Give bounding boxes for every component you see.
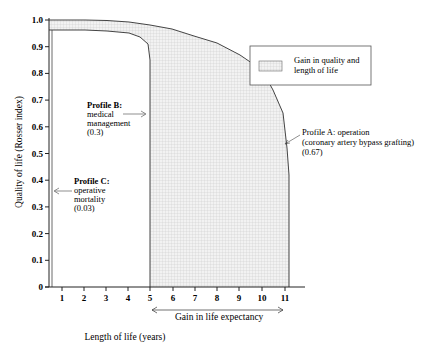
svg-text:Profile A: operation: Profile A: operation — [302, 127, 370, 137]
profile-a-annotation: Profile A: operation (coronary artery by… — [285, 127, 414, 157]
x-tick-labels: 1 2 3 4 5 6 7 8 9 10 11 — [60, 293, 290, 303]
svg-text:8: 8 — [215, 293, 220, 303]
y-ticks — [45, 20, 49, 287]
svg-text:5: 5 — [148, 293, 153, 303]
svg-text:(0.3): (0.3) — [87, 127, 103, 137]
svg-text:(0.67): (0.67) — [302, 147, 323, 157]
svg-text:3: 3 — [104, 293, 109, 303]
svg-text:7: 7 — [193, 293, 198, 303]
x-ticks — [62, 287, 285, 291]
svg-text:0.9: 0.9 — [32, 42, 44, 52]
svg-text:0.7: 0.7 — [32, 95, 44, 105]
svg-text:0.3: 0.3 — [32, 202, 44, 212]
svg-text:0.4: 0.4 — [32, 175, 44, 185]
x-axis-title: Length of life (years) — [85, 332, 166, 343]
qaly-chart: 0 0.1 0.2 0.3 0.4 0.5 0.6 0.7 0.8 0.9 1.… — [0, 0, 428, 347]
svg-text:Gain in quality and: Gain in quality and — [294, 55, 360, 65]
svg-text:0.1: 0.1 — [32, 255, 44, 265]
svg-text:6: 6 — [171, 293, 176, 303]
svg-text:9: 9 — [237, 293, 242, 303]
svg-text:2: 2 — [82, 293, 87, 303]
svg-text:0.8: 0.8 — [32, 68, 44, 78]
gain-life-expectancy-label: Gain in life expectancy — [175, 312, 264, 322]
svg-text:4: 4 — [126, 293, 131, 303]
profile-b-annotation: Profile B: medical management (0.3) — [87, 100, 146, 137]
svg-text:1.0: 1.0 — [32, 15, 44, 25]
svg-text:(coronary artery bypass grafti: (coronary artery bypass grafting) — [302, 137, 414, 147]
y-axis-title: Quality of life (Rosser index) — [14, 96, 25, 208]
legend: Gain in quality and length of life — [250, 46, 371, 85]
svg-text:11: 11 — [281, 293, 290, 303]
y-tick-labels: 0 0.1 0.2 0.3 0.4 0.5 0.6 0.7 0.8 0.9 1.… — [32, 15, 44, 292]
svg-text:0.2: 0.2 — [32, 229, 44, 239]
svg-text:10: 10 — [258, 293, 268, 303]
svg-text:0: 0 — [39, 282, 44, 292]
svg-text:1: 1 — [60, 293, 65, 303]
svg-text:(0.03): (0.03) — [74, 203, 95, 213]
legend-swatch — [259, 61, 282, 71]
profile-c-annotation: Profile C: operative mortality (0.03) — [54, 176, 110, 213]
profile-b-curve — [49, 30, 150, 287]
svg-text:length of life: length of life — [294, 65, 338, 75]
svg-text:0.5: 0.5 — [32, 149, 44, 159]
svg-text:0.6: 0.6 — [32, 122, 44, 132]
